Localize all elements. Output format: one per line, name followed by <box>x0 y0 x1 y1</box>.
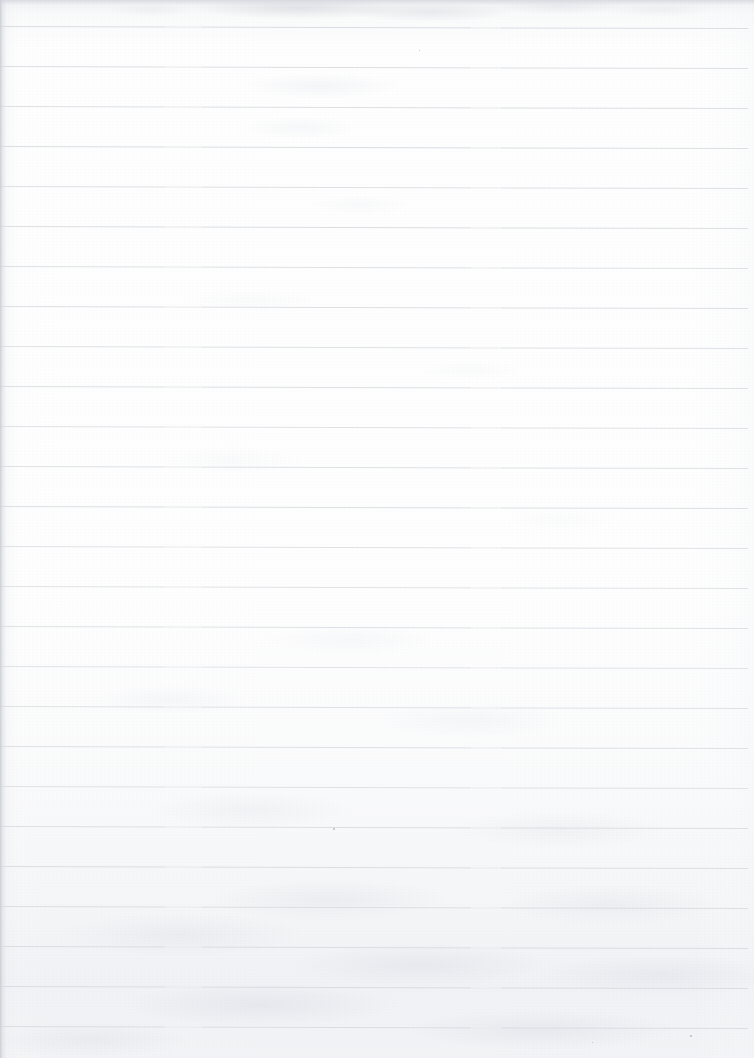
ruled-line <box>0 186 748 189</box>
paper-speck <box>690 1035 692 1037</box>
ruled-line <box>0 826 748 829</box>
ruled-line <box>0 906 748 909</box>
ruled-line <box>0 106 748 109</box>
scanned-paper-page <box>0 0 754 1058</box>
left-edge-shadow <box>0 0 6 1058</box>
top-edge-shadow <box>0 0 754 5</box>
ruled-line <box>0 266 748 269</box>
ruled-line <box>0 386 748 389</box>
paper-speck <box>419 50 420 51</box>
ruled-line <box>0 466 748 469</box>
ruled-line <box>0 786 748 789</box>
ruled-line <box>0 586 748 589</box>
ruled-line <box>0 506 748 509</box>
ruled-line <box>0 1026 748 1029</box>
ruled-line <box>0 306 748 309</box>
ruled-line <box>0 146 748 149</box>
ruled-line <box>0 226 748 229</box>
ruled-line <box>0 746 748 749</box>
ruled-line <box>0 426 748 429</box>
ruled-line <box>0 346 748 349</box>
paper-speck <box>592 1042 593 1043</box>
ruled-line <box>0 26 748 29</box>
ruled-line <box>0 666 748 669</box>
ruled-lines-layer <box>0 0 754 1058</box>
ruled-line <box>0 706 748 709</box>
ruled-line <box>0 866 748 869</box>
ruled-line <box>0 986 748 989</box>
ruled-line <box>0 946 748 949</box>
ruled-line <box>0 626 748 629</box>
ruled-line <box>0 546 748 549</box>
paper-speck <box>333 828 335 830</box>
ruled-line <box>0 66 748 69</box>
